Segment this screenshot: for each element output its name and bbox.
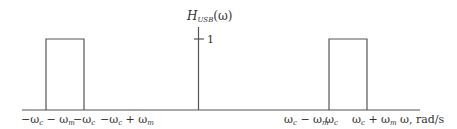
y-label-main: H	[187, 9, 197, 23]
x-tick-label-wc-plus-wm: ωc + ωm	[352, 114, 397, 127]
y-label-arg: (ω)	[213, 9, 232, 23]
x-tick-label-wc: ωc	[325, 114, 338, 127]
right-passband	[329, 39, 367, 110]
y-label-sub: USB	[197, 16, 213, 24]
y-axis-label: HUSB(ω)	[187, 10, 232, 24]
y-tick-label: 1	[207, 34, 214, 45]
x-tick-label-neg-wc-minus-wm: −ωc − ωm	[21, 114, 75, 127]
x-axis-label: ω, rad/s	[400, 114, 444, 125]
x-tick-label-neg-wc: −ωc	[73, 114, 95, 127]
x-tick-label-neg-wc-plus-wm: −ωc + ωm	[100, 114, 154, 127]
x-tick-label-wc-minus-wm: ωc − ωm	[284, 114, 329, 127]
left-passband	[46, 39, 84, 110]
